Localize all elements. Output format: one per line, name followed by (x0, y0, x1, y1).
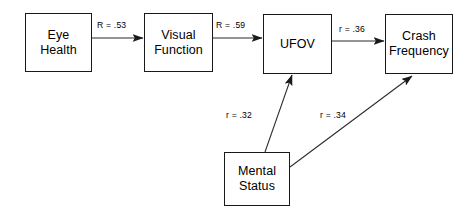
node-crash-frequency: Crash Frequency (385, 14, 453, 74)
node-crash-frequency-line-2: Frequency (389, 44, 449, 59)
edge-label-visual-to-ufov: R = .59 (216, 20, 245, 30)
edge-label-eye-to-visual: R = .53 (97, 20, 126, 30)
edge-mental-to-crash (290, 76, 412, 167)
edge-label-mental-to-crash: r = .34 (320, 110, 346, 120)
node-ufov-line-1: UFOV (280, 37, 315, 52)
node-visual-function: Visual Function (144, 13, 213, 72)
node-eye-health-line-1: Eye (48, 28, 70, 43)
edge-label-ufov-to-crash: r = .36 (339, 24, 365, 34)
edge-mental-to-ufov (265, 75, 292, 152)
node-eye-health-line-2: Health (40, 43, 77, 58)
node-visual-function-line-1: Visual (161, 28, 195, 43)
node-mental-status: Mental Status (224, 152, 290, 206)
node-mental-status-line-1: Mental (238, 164, 276, 179)
node-mental-status-line-2: Status (239, 179, 275, 194)
node-visual-function-line-2: Function (154, 43, 203, 58)
edge-label-mental-to-ufov: r = .32 (226, 110, 252, 120)
node-crash-frequency-line-1: Crash (402, 29, 436, 44)
path-model-diagram: Eye Health Visual Function UFOV Crash Fr… (0, 0, 473, 220)
node-eye-health: Eye Health (25, 13, 92, 72)
node-ufov: UFOV (263, 14, 332, 74)
